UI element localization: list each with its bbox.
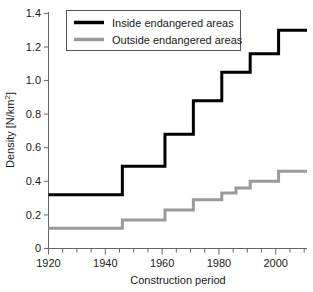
- y-axis-title: Density [N/km2]: [3, 92, 16, 168]
- series-group: [49, 30, 308, 228]
- y-tick-label: 0.4: [26, 175, 41, 187]
- y-tick-label: 1.0: [26, 74, 41, 86]
- y-axis-tick-labels: 0 0.2 0.4 0.6 0.8 1.0 1.2 1.4: [26, 7, 41, 254]
- y-tick-label: 0.2: [26, 209, 41, 221]
- density-step-chart: 0 0.2 0.4 0.6 0.8 1.0 1.2 1.4 Density [N…: [0, 0, 313, 292]
- y-axis-title-suffix: ]: [4, 92, 16, 95]
- x-axis-tick-labels: 19201940196019802000: [36, 257, 288, 269]
- x-tick-label: 1940: [93, 257, 117, 269]
- y-tick-label: 0.6: [26, 141, 41, 153]
- legend-label-outside: Outside endangered areas: [112, 34, 243, 46]
- svg-text:Density [N/km2]: Density [N/km2]: [3, 92, 16, 168]
- x-tick-label: 1960: [150, 257, 174, 269]
- x-axis-title: Construction period: [130, 274, 225, 286]
- y-axis-ticks: [44, 13, 49, 248]
- series-line-outside: [49, 171, 308, 228]
- legend-label-inside: Inside endangered areas: [112, 17, 234, 29]
- x-tick-label: 1980: [207, 257, 231, 269]
- x-tick-label: 2000: [264, 257, 288, 269]
- series-line-inside: [49, 30, 308, 195]
- y-tick-label: 1.2: [26, 41, 41, 53]
- y-tick-label: 1.4: [26, 7, 41, 19]
- chart-figure: 0 0.2 0.4 0.6 0.8 1.0 1.2 1.4 Density [N…: [0, 0, 313, 292]
- legend: Inside endangered areas Outside endanger…: [67, 11, 243, 51]
- x-tick-label: 1920: [36, 257, 60, 269]
- y-axis-title-prefix: Density [N/km: [4, 100, 16, 168]
- y-tick-label: 0.8: [26, 108, 41, 120]
- y-tick-label: 0: [35, 242, 41, 254]
- x-axis-ticks: [49, 249, 305, 255]
